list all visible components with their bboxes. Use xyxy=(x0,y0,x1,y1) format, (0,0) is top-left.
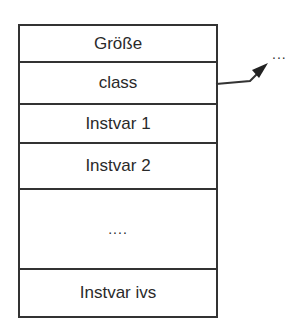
pointer-target-ellipsis: ... xyxy=(272,46,287,62)
class-pointer-arrow-icon xyxy=(0,0,301,333)
